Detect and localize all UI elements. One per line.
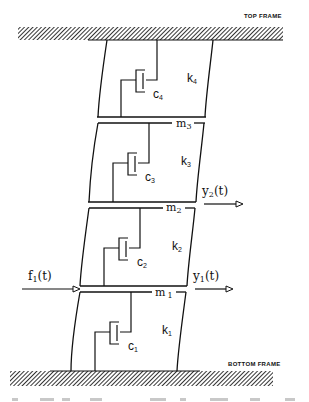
output-y1-label: y1(t): [192, 269, 219, 284]
svg-text:k2: k2: [172, 239, 182, 253]
svg-text:k3: k3: [181, 154, 191, 168]
top-frame-label: TOP FRAME: [244, 13, 282, 19]
column-left-1: [71, 292, 80, 371]
column-left-2: [80, 208, 89, 286]
caption-remnant: [12, 398, 295, 401]
column-right-4: [205, 40, 213, 117]
damper-c1: [95, 292, 131, 371]
svg-text:c1: c1: [128, 339, 138, 353]
svg-text:k1: k1: [162, 323, 172, 337]
column-right-1: [177, 292, 186, 371]
damper-c3: [113, 123, 149, 202]
input-force-label: f1(t): [28, 269, 52, 284]
svg-text:m1: m1: [155, 286, 173, 300]
top-frame: [18, 27, 283, 40]
input-force-arrow: [22, 286, 80, 292]
output-y1-arrow: [195, 286, 233, 292]
damper-c2: [104, 208, 140, 286]
svg-text:k4: k4: [187, 71, 197, 85]
column-left-3: [89, 123, 98, 202]
svg-text:m2: m2: [166, 201, 182, 215]
dampers: [95, 40, 157, 371]
svg-text:c3: c3: [145, 170, 155, 184]
column-left-4: [98, 40, 107, 117]
output-y2-label: y2(t): [201, 184, 228, 199]
svg-text:c4: c4: [153, 87, 163, 101]
structure-diagram: TOP FRAME BOTTOM FRAME: [0, 0, 309, 402]
output-y2-arrow: [204, 201, 243, 207]
svg-text:c2: c2: [137, 255, 147, 269]
damper-c4: [121, 40, 157, 117]
svg-text:m3: m3: [176, 117, 192, 131]
bottom-frame: [10, 371, 273, 386]
damper-labels: c4 c3 c2 c1: [128, 87, 163, 353]
columns: [71, 40, 213, 371]
bottom-frame-label: BOTTOM FRAME: [228, 361, 281, 367]
